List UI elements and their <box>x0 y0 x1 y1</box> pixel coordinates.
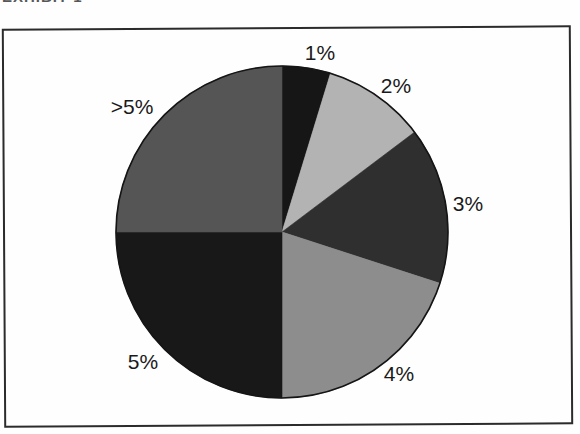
pie-slice-gt5pct <box>116 66 282 232</box>
scanned-page: EXHIBIT 1 1% 2% 3% 4% 5% >5% <box>0 0 580 434</box>
slice-label-gt5pct: >5% <box>111 95 154 118</box>
slice-label-2pct: 2% <box>381 74 411 97</box>
pie-slices-group <box>116 66 448 398</box>
slice-label-1pct: 1% <box>305 41 335 64</box>
slice-label-5pct: 5% <box>128 350 158 373</box>
pie-chart: 1% 2% 3% 4% 5% >5% <box>0 0 580 434</box>
slice-label-4pct: 4% <box>384 362 414 385</box>
pie-slice-5pct <box>116 232 282 398</box>
slice-label-3pct: 3% <box>453 192 483 215</box>
